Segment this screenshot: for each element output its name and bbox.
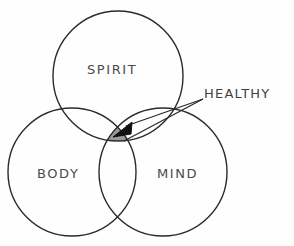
annotation-label-healthy: HEALTHY xyxy=(204,86,270,101)
set-label-mind: MIND xyxy=(157,166,198,181)
venn-diagram-svg xyxy=(0,0,294,246)
healthy-leader-line-lower xyxy=(124,99,203,141)
healthy-leader-lines xyxy=(124,99,203,141)
set-label-body: BODY xyxy=(37,166,80,181)
set-label-spirit: SPIRIT xyxy=(87,62,137,77)
venn-diagram-canvas: SPIRIT BODY MIND HEALTHY xyxy=(0,0,294,246)
